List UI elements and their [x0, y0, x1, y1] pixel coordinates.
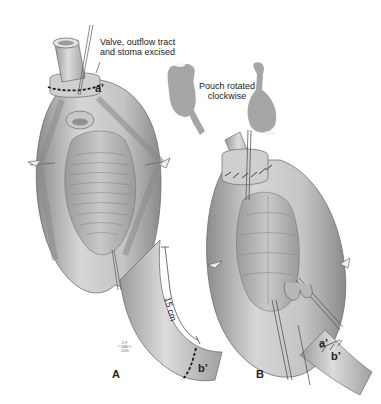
rotation-note: Pouch rotated clockwise	[199, 81, 255, 101]
panel-label-a: A	[112, 368, 120, 380]
marker-b-prime-panel-a: b’	[198, 362, 208, 374]
callout-valve-excised: Valve, outflow tract and stoma excised	[100, 37, 175, 57]
rotation-note-line-1: Pouch rotated	[199, 81, 255, 91]
callout-line-2: and stoma excised	[100, 47, 175, 57]
surgical-illustration: Valve, outflow tract and stoma excised P…	[0, 0, 381, 404]
marker-a-prime-panel-b: a’	[319, 337, 328, 349]
marker-a-prime-panel-a: a’	[95, 82, 104, 94]
rotation-note-line-2: clockwise	[199, 91, 255, 101]
panel-label-b: B	[256, 368, 264, 380]
callout-line-1: Valve, outflow tract	[100, 37, 175, 47]
marker-b-prime-panel-b: b’	[331, 350, 341, 362]
copyright-line-3: 2008	[118, 349, 132, 353]
copyright-mark: D.F. © MAYO 2008	[118, 341, 132, 353]
panel-b-artwork	[207, 130, 372, 395]
